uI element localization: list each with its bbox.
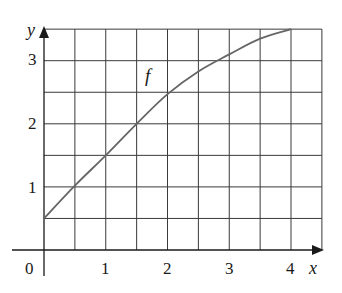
axis-labels: 0 1 2 3 4 x 1 2 3 y f (25, 20, 317, 278)
y-tick-label-1: 1 (28, 178, 37, 197)
y-tick-label-3: 3 (28, 50, 37, 69)
series-label-f: f (145, 65, 153, 86)
y-tick-label-2: 2 (28, 114, 37, 133)
x-tick-label-4: 4 (286, 259, 295, 278)
y-axis-label: y (25, 20, 35, 40)
x-tick-label-2: 2 (163, 259, 172, 278)
x-tick-label-3: 3 (225, 259, 234, 278)
grid-lines (44, 29, 322, 250)
y-axis-arrow-icon (39, 26, 49, 38)
function-graph: 0 1 2 3 4 x 1 2 3 y f (0, 0, 342, 293)
origin-label: 0 (25, 259, 34, 278)
x-axis-label: x (308, 258, 317, 278)
x-tick-label-1: 1 (101, 259, 110, 278)
